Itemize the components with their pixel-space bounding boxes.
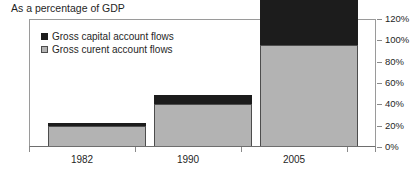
legend-item-current: Gross curent account flows <box>41 43 174 56</box>
y-axis-tick <box>377 83 382 84</box>
y-axis-tick <box>377 62 382 63</box>
y-axis-tick <box>377 40 382 41</box>
x-axis-label-1990: 1990 <box>135 154 241 166</box>
y-axis-label: 120% <box>385 14 409 24</box>
y-axis-label: 0% <box>385 142 399 152</box>
y-axis-label: 40% <box>385 99 404 109</box>
legend-item-label: Gross capital account flows <box>52 31 174 43</box>
x-axis-tick <box>375 147 376 152</box>
chart-figure: As a percentage of GDP Gross capital <box>0 0 417 175</box>
bar-group-1990 <box>154 95 252 146</box>
x-axis-tick <box>29 147 30 152</box>
x-axis-tick <box>135 147 136 152</box>
bar-segment-capital-1990 <box>154 95 252 104</box>
x-axis-label-1982: 1982 <box>29 154 135 166</box>
y-axis-label: 20% <box>385 121 404 131</box>
bar-segment-current-1982 <box>48 126 146 146</box>
legend-item-label: Gross curent account flows <box>52 44 173 56</box>
bar-segment-current-2005 <box>260 45 358 146</box>
x-axis-label-2005: 2005 <box>241 154 347 166</box>
page-title: As a percentage of GDP <box>11 2 125 14</box>
black-square-icon <box>41 33 48 40</box>
bar-group-1982 <box>48 123 146 146</box>
y-axis-tick <box>377 147 382 148</box>
chart-legend: Gross capital account flows Gross curent… <box>41 30 174 56</box>
y-axis-tick <box>377 104 382 105</box>
y-axis-tick <box>377 19 382 20</box>
x-axis-tick <box>241 147 242 152</box>
legend-item-capital: Gross capital account flows <box>41 30 174 43</box>
bar-group-2005 <box>260 0 358 146</box>
y-axis-label: 100% <box>385 35 409 45</box>
x-axis-tick <box>347 147 348 152</box>
y-axis-label: 60% <box>385 78 404 88</box>
bar-segment-capital-1982 <box>48 123 146 126</box>
y-axis-tick <box>377 126 382 127</box>
gray-square-icon <box>41 46 48 53</box>
bar-segment-capital-2005 <box>260 0 358 45</box>
bar-segment-current-1990 <box>154 104 252 146</box>
y-axis-label: 80% <box>385 57 404 67</box>
